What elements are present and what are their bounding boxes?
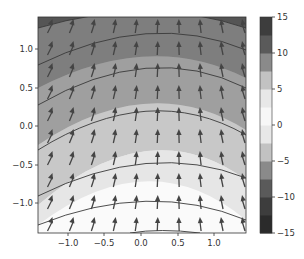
colorbar-tick-label: 5 bbox=[277, 84, 282, 94]
y-tick-label: −0.5 bbox=[12, 160, 33, 170]
x-tick-label: −0.5 bbox=[94, 238, 115, 248]
colorbar-tick-label: −15 bbox=[277, 228, 295, 238]
colorbar-band bbox=[260, 71, 272, 90]
colorbar-tick-label: −5 bbox=[277, 156, 290, 166]
y-tick-label: 0.5 bbox=[19, 83, 33, 93]
colorbar-band bbox=[260, 161, 272, 180]
colorbar-band bbox=[260, 215, 272, 234]
colorbar-band bbox=[260, 35, 272, 54]
x-tick-label: 0.0 bbox=[134, 238, 148, 248]
colorbar-tick-label: 0 bbox=[277, 120, 282, 130]
y-tick-label: 1.0 bbox=[19, 44, 33, 54]
colorbar-tick-label: 15 bbox=[277, 12, 288, 22]
colorbar-band bbox=[260, 179, 272, 198]
x-tick-label: 0.5 bbox=[171, 238, 185, 248]
colorbar-band bbox=[260, 125, 272, 144]
colorbar-band bbox=[260, 107, 272, 126]
y-axis: −1.0 −0.5 0.0 0.5 1.0 bbox=[12, 44, 38, 208]
colorbar-tick-label: 10 bbox=[277, 48, 288, 58]
colorbar-band bbox=[260, 53, 272, 72]
x-axis: −1.0 −0.5 0.0 0.5 1.0 bbox=[58, 233, 221, 248]
contour-quiver-figure: −1.0 −0.5 0.0 0.5 1.0 −1.0 −0.5 0.0 0.5 … bbox=[0, 0, 304, 259]
x-tick-label: −1.0 bbox=[58, 238, 79, 248]
y-tick-label: 0.0 bbox=[19, 121, 33, 131]
colorbar: 151050−5−10−15 bbox=[260, 12, 295, 238]
colorbar-band bbox=[260, 197, 272, 216]
colorbar-band bbox=[260, 89, 272, 108]
plot-area bbox=[38, 12, 246, 234]
colorbar-band bbox=[260, 17, 272, 36]
colorbar-band bbox=[260, 143, 272, 162]
x-tick-label: 1.0 bbox=[207, 238, 221, 248]
y-tick-label: −1.0 bbox=[12, 198, 33, 208]
colorbar-tick-label: −10 bbox=[277, 192, 295, 202]
